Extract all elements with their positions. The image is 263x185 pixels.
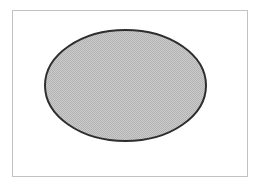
gray-ellipse-shape (45, 30, 206, 141)
diagram-canvas (0, 0, 263, 185)
